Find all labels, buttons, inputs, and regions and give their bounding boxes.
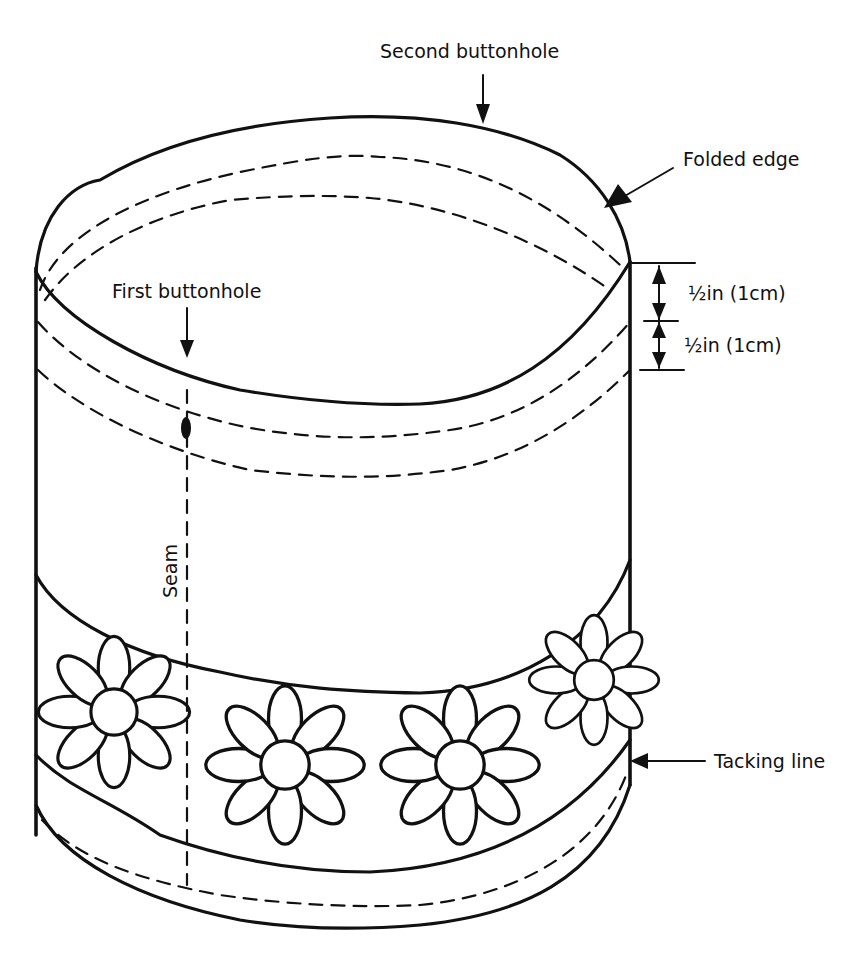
sewing-diagram: Second buttonhole Folded edge First butt… <box>0 0 862 953</box>
second-buttonhole-arrowhead-icon <box>476 104 490 124</box>
first-buttonhole-mark <box>181 417 191 439</box>
stitch-line-back-1 <box>40 156 620 290</box>
label-folded-edge: Folded edge <box>683 148 800 170</box>
tacking-line-arrowhead-icon <box>630 753 648 769</box>
label-measurement-top: ½in (1cm) <box>688 282 786 304</box>
measure-arrow-down-2-icon <box>652 352 666 368</box>
flower-4 <box>529 615 659 745</box>
measure-arrow-up-1-icon <box>652 266 666 284</box>
flower-3 <box>381 686 539 844</box>
first-buttonhole-arrowhead-icon <box>180 340 194 358</box>
measure-arrow-up-2-icon <box>652 322 666 338</box>
folded-edge-arrowhead-icon <box>604 184 632 208</box>
stitch-line-front-1 <box>38 322 630 437</box>
flower-border <box>38 615 658 844</box>
label-first-buttonhole: First buttonhole <box>112 280 261 302</box>
label-second-buttonhole: Second buttonhole <box>380 40 559 62</box>
flower-1 <box>38 636 189 787</box>
label-tacking-line: Tacking line <box>713 750 825 772</box>
label-measurement-bottom: ½in (1cm) <box>684 334 782 356</box>
flower-2 <box>206 686 364 844</box>
label-seam: Seam <box>159 544 181 598</box>
measure-arrow-down-1-icon <box>652 303 666 320</box>
